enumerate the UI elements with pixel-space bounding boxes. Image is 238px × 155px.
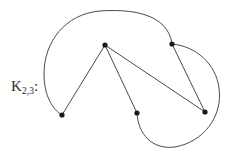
graph-edge-u2-v3 — [172, 44, 205, 112]
graph-label-colon: : — [34, 78, 38, 94]
graph-vertex-bottom-left — [59, 112, 64, 117]
graph-vertex-bottom-right — [202, 109, 207, 114]
graph-vertex-top-apex — [102, 42, 107, 47]
graph-vertex-bottom-middle — [134, 110, 139, 115]
graph-edge-arc-u2-v1 — [44, 11, 172, 115]
graph-label-subscript: 2,3 — [22, 86, 34, 96]
graph-label: K2,3: — [11, 79, 38, 96]
graph-edge-u1-v3 — [105, 45, 205, 112]
graph-edge-u1-v1 — [62, 45, 105, 115]
graph-vertex-upper-right-apex — [169, 41, 174, 46]
figure-container: K2,3: — [0, 0, 238, 155]
graph-edge-arc-u2-v2 — [137, 44, 220, 147]
graph-label-base: K — [11, 78, 22, 94]
